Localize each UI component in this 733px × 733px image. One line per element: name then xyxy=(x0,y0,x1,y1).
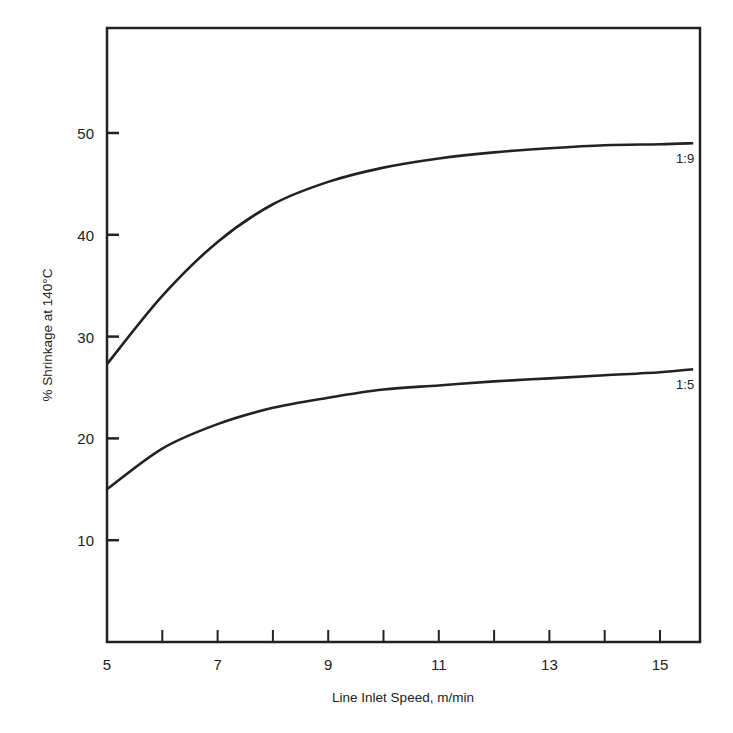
x-axis-title: Line Inlet Speed, m/min xyxy=(332,690,474,705)
y-tick-label: 40 xyxy=(77,227,94,244)
x-tick-label: 7 xyxy=(213,656,221,673)
x-tick-label: 13 xyxy=(541,656,558,673)
x-tick-label: 5 xyxy=(103,656,111,673)
chart: 1020304050 579111315 1:91:5 Line Inlet S… xyxy=(0,0,733,733)
series-line-1-5 xyxy=(107,369,693,489)
y-tick-label: 20 xyxy=(77,430,94,447)
x-tick-label: 9 xyxy=(324,656,332,673)
series-label: 1:5 xyxy=(676,377,694,392)
x-tick-label: 11 xyxy=(431,656,447,673)
series-line-1-9 xyxy=(107,143,693,364)
y-tick-label: 50 xyxy=(77,125,94,142)
x-tick-label: 15 xyxy=(652,656,669,673)
series-lines: 1:91:5 xyxy=(107,143,694,489)
plot-frame xyxy=(107,28,700,642)
y-tick-label: 30 xyxy=(77,329,94,346)
y-axis-title: % Shrinkage at 140°C xyxy=(40,268,55,401)
x-axis-ticks: 579111315 xyxy=(103,630,669,673)
y-tick-label: 10 xyxy=(77,532,94,549)
series-label: 1:9 xyxy=(676,151,694,166)
